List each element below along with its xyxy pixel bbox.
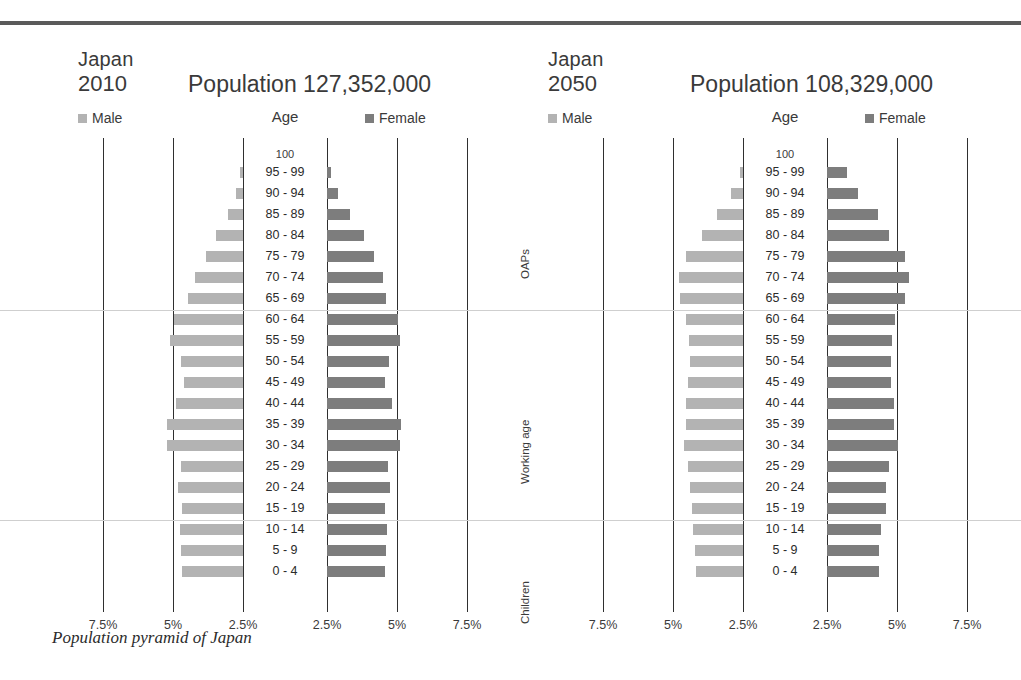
bar-male — [686, 314, 743, 325]
bar-female — [827, 167, 847, 178]
age-group-label: 85 - 89 — [743, 207, 827, 222]
panel-year-label: 2050 — [548, 72, 597, 96]
bar-male — [696, 566, 743, 577]
age-group-label: 10 - 14 — [243, 522, 327, 537]
bar-female — [327, 335, 400, 346]
pyramid-row: 80 - 84 — [0, 228, 510, 243]
age-group-label: 35 - 39 — [743, 417, 827, 432]
bar-female — [827, 440, 898, 451]
bar-male — [181, 461, 243, 472]
bar-male — [178, 482, 243, 493]
bar-female — [327, 314, 398, 325]
pyramid-row: 55 - 59 — [510, 333, 1021, 348]
age-group-label: 20 - 24 — [743, 480, 827, 495]
bar-male — [181, 356, 243, 367]
bar-male — [167, 419, 243, 430]
pyramid-row: 35 - 39 — [510, 417, 1021, 432]
age-group-label: 80 - 84 — [743, 228, 827, 243]
x-axis-tick-label: 5% — [649, 618, 697, 632]
panel-population-total: Population 108,329,000 — [690, 72, 933, 97]
bar-male — [176, 398, 243, 409]
pyramid-row: 70 - 74 — [510, 270, 1021, 285]
age-group-label: 45 - 49 — [243, 375, 327, 390]
bar-female — [827, 209, 878, 220]
bar-female — [827, 314, 895, 325]
bar-male — [686, 398, 743, 409]
legend-male-swatch — [78, 114, 87, 123]
age-group-label: 5 - 9 — [743, 543, 827, 558]
band-separator-working-children — [0, 520, 510, 521]
age-group-label: 0 - 4 — [743, 564, 827, 579]
age-group-band-labels: OAPsWorking ageChildren — [505, 34, 535, 634]
bar-female — [827, 356, 891, 367]
pyramid-row: 10 - 14 — [510, 522, 1021, 537]
bar-female — [827, 482, 886, 493]
age-group-label: 15 - 19 — [243, 501, 327, 516]
pyramid-row: 60 - 64 — [0, 312, 510, 327]
population-pyramid-figure: Japan2010Population 127,352,000MaleFemal… — [0, 0, 1021, 680]
age-group-label: 60 - 64 — [743, 312, 827, 327]
age-top-label-100: 100 — [255, 148, 315, 160]
bar-female — [327, 545, 386, 556]
bar-male — [236, 188, 243, 199]
bar-male — [686, 419, 743, 430]
bar-female — [327, 272, 383, 283]
age-group-label: 40 - 44 — [743, 396, 827, 411]
age-group-label: 60 - 64 — [243, 312, 327, 327]
pyramid-row: 60 - 64 — [510, 312, 1021, 327]
age-group-label: 90 - 94 — [743, 186, 827, 201]
bar-male — [170, 335, 243, 346]
bar-male — [688, 377, 743, 388]
age-group-label: 30 - 34 — [743, 438, 827, 453]
age-group-label: 50 - 54 — [743, 354, 827, 369]
bar-female — [827, 272, 909, 283]
bar-female — [327, 167, 331, 178]
pyramid-row: 85 - 89 — [510, 207, 1021, 222]
x-axis-tick-label: 2.5% — [303, 618, 351, 632]
band-separator-oaps-working — [0, 310, 510, 311]
bar-male — [690, 356, 743, 367]
bar-female — [827, 293, 905, 304]
legend-female-label: Female — [879, 110, 926, 126]
pyramid-row: 40 - 44 — [510, 396, 1021, 411]
panel-japan-2010: Japan2010Population 127,352,000MaleFemal… — [0, 34, 510, 634]
pyramid-row: 90 - 94 — [0, 186, 510, 201]
pyramid-row: 20 - 24 — [510, 480, 1021, 495]
bar-female — [327, 503, 385, 514]
bar-male — [174, 314, 243, 325]
x-axis-tick-label: 5% — [373, 618, 421, 632]
pyramid-row: 50 - 54 — [0, 354, 510, 369]
bar-female — [827, 419, 894, 430]
bar-male — [731, 188, 743, 199]
bar-female — [827, 335, 892, 346]
age-group-label: 15 - 19 — [743, 501, 827, 516]
panel-country-label: Japan — [78, 48, 134, 70]
band-label-children: Children — [519, 581, 531, 624]
age-group-label: 0 - 4 — [243, 564, 327, 579]
age-group-label: 65 - 69 — [743, 291, 827, 306]
pyramid-row: 45 - 49 — [0, 375, 510, 390]
pyramid-row: 30 - 34 — [0, 438, 510, 453]
legend-female: Female — [865, 110, 926, 126]
age-group-label: 10 - 14 — [743, 522, 827, 537]
figure-caption: Population pyramid of Japan — [52, 628, 252, 648]
bar-male — [182, 503, 243, 514]
age-group-label: 50 - 54 — [243, 354, 327, 369]
pyramid-row: 40 - 44 — [0, 396, 510, 411]
legend-female: Female — [365, 110, 426, 126]
panel-japan-2050: Japan2050Population 108,329,000MaleFemal… — [510, 34, 1021, 634]
x-axis-tick-label: 7.5% — [579, 618, 627, 632]
bar-male — [688, 461, 743, 472]
age-group-label: 55 - 59 — [743, 333, 827, 348]
age-group-label: 45 - 49 — [743, 375, 827, 390]
bar-male — [679, 272, 743, 283]
age-group-label: 95 - 99 — [743, 165, 827, 180]
bar-male — [692, 503, 743, 514]
bar-male — [184, 377, 243, 388]
age-axis-header: Age — [745, 108, 825, 125]
age-group-label: 20 - 24 — [243, 480, 327, 495]
band-separator-working-children — [510, 520, 1021, 521]
pyramid-row: 80 - 84 — [510, 228, 1021, 243]
panel-year-label: 2010 — [78, 72, 127, 96]
pyramid-row: 5 - 9 — [0, 543, 510, 558]
